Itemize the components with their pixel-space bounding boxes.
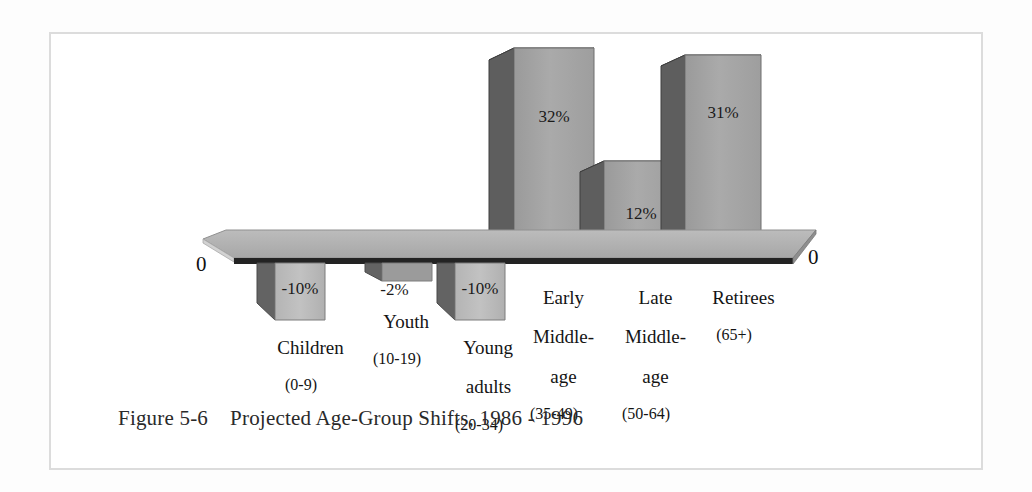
category-name-late-middle-age-l3: age <box>642 366 668 387</box>
category-name-early-middle-age-l3: age <box>550 366 576 387</box>
category-name-children: Children <box>277 337 344 358</box>
category-name-early-middle-age-l1: Early <box>543 287 584 308</box>
figure-caption-number: Figure 5-6 <box>118 406 208 430</box>
category-label-retirees: Retirees (65+) <box>676 268 792 383</box>
value-label-retirees: 31% <box>685 104 761 121</box>
axis-zero-left: 0 <box>196 254 207 275</box>
category-range-late-middle-age: (50-64) <box>594 406 698 423</box>
value-label-early-middle-age: 32% <box>514 108 594 125</box>
category-name-early-middle-age-l2: Middle- <box>533 326 594 347</box>
figure-caption: Figure 5-6Projected Age-Group Shifts, 19… <box>118 406 583 431</box>
value-label-children: -10% <box>275 280 325 297</box>
category-name-retirees: Retirees <box>712 287 774 308</box>
category-range-retirees: (65+) <box>676 327 792 344</box>
category-name-late-middle-age-l1: Late <box>639 287 673 308</box>
value-label-young-adults: -10% <box>455 280 505 297</box>
value-label-late-middle-age: 12% <box>604 205 678 222</box>
page-canvas: 0 0 -10% -2% -10% 32% 12% 31% Children (… <box>0 0 1032 492</box>
figure-caption-title: Projected Age-Group Shifts, 1986 - 1996 <box>230 406 583 430</box>
category-label-early-middle-age: Early Middle- age (35-49) <box>500 268 608 462</box>
axis-zero-right: 0 <box>808 247 819 268</box>
